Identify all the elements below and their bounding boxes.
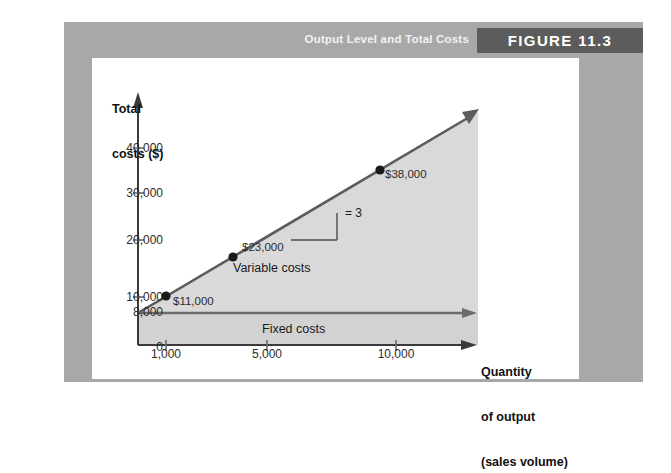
y-axis-title: Total costs ($) <box>112 72 163 192</box>
x-axis-title-line3: (sales volume) <box>481 455 568 470</box>
chart-panel: Total costs ($) Quantity of output (sale… <box>92 58 579 379</box>
data-point-38000 <box>375 165 384 174</box>
y-axis-title-line1: Total <box>112 102 163 117</box>
y-axis-tick-label: 40,000 <box>101 141 163 155</box>
figure-caption: Output Level and Total Costs <box>305 33 469 45</box>
x-axis-title-line1: Quantity <box>481 365 568 380</box>
y-axis-tick-label: 8,000 <box>101 305 163 319</box>
data-point-label: $11,000 <box>173 295 214 307</box>
variable-costs-label: Variable costs <box>233 261 311 275</box>
cost-chart-plot <box>92 58 579 379</box>
y-axis-tick-label: 30,000 <box>101 186 163 200</box>
data-point-label: $23,000 <box>242 241 284 253</box>
figure-number-tab: FIGURE 11.3 <box>477 28 643 53</box>
fixed-costs-label: Fixed costs <box>262 322 325 336</box>
y-axis-tick-label: 10,000 <box>101 290 163 304</box>
figure-number-label: FIGURE 11.3 <box>477 28 643 53</box>
slope-annotation-label: = 3 <box>345 206 362 220</box>
data-point-label: $38,000 <box>385 168 427 180</box>
y-axis-tick-label: 20,000 <box>101 233 163 247</box>
x-axis-tick-label: 5,000 <box>237 347 297 361</box>
x-axis-title-line2: of output <box>481 410 568 425</box>
figure-header: Output Level and Total Costs FIGURE 11.3 <box>64 28 643 54</box>
x-axis-tick-label: 10,000 <box>366 347 426 361</box>
x-axis-tick-label: 1,000 <box>136 347 196 361</box>
x-axis-title: Quantity of output (sales volume) <box>481 335 568 473</box>
